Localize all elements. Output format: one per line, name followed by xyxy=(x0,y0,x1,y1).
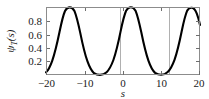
yaxis-title-argument: (s) xyxy=(4,29,17,41)
ytick-label-3: 0.2 xyxy=(28,55,42,67)
xtick-label-3: 10 xyxy=(156,77,168,89)
xtick-label-4: 20 xyxy=(194,77,206,89)
xaxis-title: s xyxy=(121,87,125,99)
ytick-label-0: 0.8 xyxy=(28,15,42,27)
ytick-label-2: 0.4 xyxy=(28,42,42,54)
xtick-label-0: −20 xyxy=(38,77,56,89)
xtick-label-1: −10 xyxy=(76,77,94,89)
yaxis-title-group: ψT(s) xyxy=(4,29,19,52)
yaxis-tick-labels: 0.8 0.6 0.4 0.2 xyxy=(28,15,42,67)
plot-canvas: 0.8 0.6 0.4 0.2 −20 −10 0 10 20 s ψT(s) xyxy=(0,0,209,99)
chart-figure: 0.8 0.6 0.4 0.2 −20 −10 0 10 20 s ψT(s) xyxy=(0,0,209,99)
yaxis-title: ψT(s) xyxy=(4,29,19,52)
ytick-label-1: 0.6 xyxy=(28,29,42,41)
